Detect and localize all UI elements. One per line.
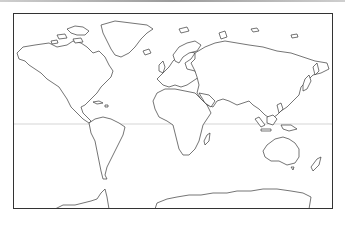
new-guinea [281, 125, 297, 131]
tasmania [291, 167, 294, 170]
top-divider [0, 0, 345, 2]
arctic-islands [67, 26, 89, 35]
arctic-islands-2 [57, 34, 67, 39]
svalbard [179, 27, 189, 33]
java [261, 129, 271, 131]
world-map-svg [14, 14, 332, 208]
arctic-islands-4 [51, 40, 58, 44]
australia [263, 137, 299, 165]
arctic-islands-3 [73, 38, 83, 43]
antarctica-east [155, 189, 311, 208]
borneo [267, 115, 277, 125]
siberian-islands-2 [291, 34, 298, 38]
caribbean-islands-2 [105, 105, 108, 107]
siberian-islands [251, 28, 259, 32]
british-isles [159, 61, 165, 73]
new-zealand [311, 157, 321, 171]
caribbean-islands [93, 101, 103, 104]
novaya-zemlya [219, 31, 227, 39]
world-map [13, 13, 333, 209]
antarctica-west [55, 189, 109, 208]
north-america [17, 41, 113, 123]
south-america [89, 117, 125, 179]
sumatra [255, 117, 265, 127]
iceland [143, 49, 151, 55]
madagascar [204, 133, 210, 145]
